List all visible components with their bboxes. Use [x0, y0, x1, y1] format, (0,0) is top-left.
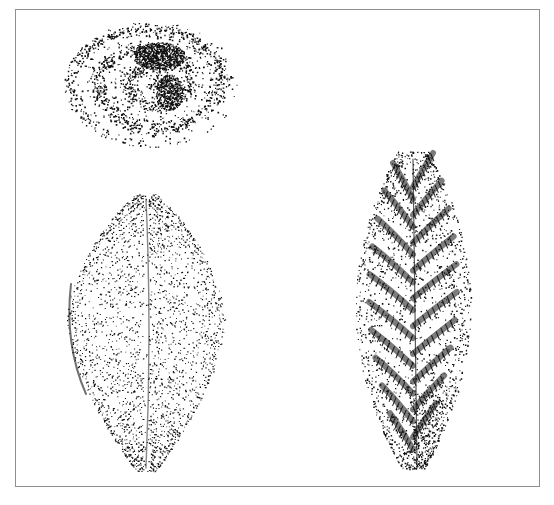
- illustration-plate: [15, 9, 540, 487]
- fern-frond-fossil: [356, 151, 472, 470]
- oval-fossil-leaf: [67, 194, 226, 472]
- coiled-fossil: [65, 23, 238, 148]
- fossil-illustration: [16, 10, 541, 488]
